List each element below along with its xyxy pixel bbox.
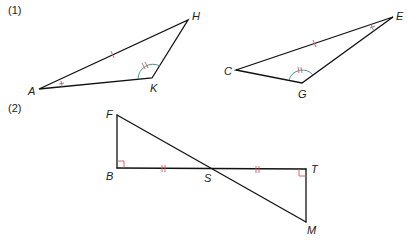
vertex-label-K: K: [150, 82, 158, 94]
vertex-label-G: G: [298, 88, 307, 100]
part-1-label: (1): [8, 4, 21, 16]
vertex-label-A: A: [27, 85, 35, 97]
geometry-diagram: (1) (2) A K H C G E: [0, 0, 410, 242]
figure-part-2: F B S T M: [106, 108, 319, 236]
triangle-AKH: A K H: [27, 10, 200, 97]
point-label-S: S: [204, 172, 212, 184]
angle-tick-G-1: [298, 67, 299, 73]
point-label-M: M: [307, 224, 317, 236]
right-angle-B: [117, 161, 124, 168]
triangle-CGE: C G E: [224, 10, 404, 100]
vertex-label-H: H: [192, 10, 200, 22]
point-label-F: F: [106, 108, 114, 120]
point-label-B: B: [106, 170, 113, 182]
point-label-T: T: [311, 163, 319, 175]
vertex-label-E: E: [396, 10, 404, 22]
angle-tick-A: [59, 83, 64, 84]
right-angle-T: [299, 169, 306, 176]
angle-arc-G: [289, 70, 313, 80]
part-2-label: (2): [8, 102, 21, 114]
vertex-label-C: C: [224, 65, 232, 77]
angle-tick-G-2: [301, 67, 302, 73]
